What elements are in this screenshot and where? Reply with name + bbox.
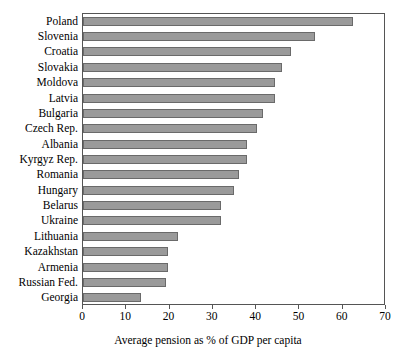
bar-row bbox=[83, 63, 384, 72]
y-axis-label: Georgia bbox=[0, 291, 78, 303]
bar bbox=[83, 140, 247, 149]
y-axis-label: Kazakhstan bbox=[0, 245, 78, 257]
bar-row bbox=[83, 124, 384, 133]
bar bbox=[83, 293, 141, 302]
pension-bar-chart: PolandSloveniaCroatiaSlovakiaMoldovaLatv… bbox=[0, 0, 416, 360]
x-tick-label: 60 bbox=[336, 310, 348, 322]
bar-row bbox=[83, 94, 384, 103]
x-tick-label: 50 bbox=[293, 310, 305, 322]
x-tick-label: 70 bbox=[379, 310, 391, 322]
bar bbox=[83, 278, 166, 287]
bar bbox=[83, 155, 247, 164]
bar bbox=[83, 109, 263, 118]
y-axis-category-labels: PolandSloveniaCroatiaSlovakiaMoldovaLatv… bbox=[0, 13, 78, 305]
y-axis-label: Slovenia bbox=[0, 30, 78, 42]
y-axis-label: Romania bbox=[0, 168, 78, 180]
bar bbox=[83, 170, 239, 179]
y-axis-label: Czech Rep. bbox=[0, 122, 78, 134]
bar-row bbox=[83, 47, 384, 56]
bar bbox=[83, 216, 221, 225]
x-tick-label: 10 bbox=[120, 310, 132, 322]
bar bbox=[83, 124, 257, 133]
x-tick-label: 30 bbox=[206, 310, 218, 322]
x-tick-mark bbox=[342, 305, 343, 309]
x-tick-mark bbox=[82, 305, 83, 309]
x-tick-label: 20 bbox=[163, 310, 175, 322]
y-axis-label: Poland bbox=[0, 15, 78, 27]
bar-row bbox=[83, 155, 384, 164]
bar-row bbox=[83, 32, 384, 41]
x-tick-mark bbox=[212, 305, 213, 309]
y-axis-label: Russian Fed. bbox=[0, 276, 78, 288]
x-tick-label: 0 bbox=[79, 310, 85, 322]
bar-row bbox=[83, 170, 384, 179]
y-axis-label: Hungary bbox=[0, 184, 78, 196]
y-axis-label: Belarus bbox=[0, 199, 78, 211]
bar bbox=[83, 201, 221, 210]
bar-row bbox=[83, 186, 384, 195]
x-axis-title: Average pension as % of GDP per capita bbox=[0, 334, 416, 346]
bar bbox=[83, 186, 234, 195]
y-axis-label: Slovakia bbox=[0, 61, 78, 73]
bar-row bbox=[83, 216, 384, 225]
x-tick-label: 40 bbox=[249, 310, 261, 322]
plot-area bbox=[82, 13, 385, 305]
bar-row bbox=[83, 140, 384, 149]
x-tick-mark bbox=[255, 305, 256, 309]
y-axis-label: Armenia bbox=[0, 261, 78, 273]
y-axis-label: Kyrgyz Rep. bbox=[0, 153, 78, 165]
bar bbox=[83, 247, 168, 256]
bar-row bbox=[83, 201, 384, 210]
bar-row bbox=[83, 232, 384, 241]
bar-row bbox=[83, 293, 384, 302]
y-axis-label: Ukraine bbox=[0, 214, 78, 226]
y-axis-label: Albania bbox=[0, 138, 78, 150]
y-axis-label: Latvia bbox=[0, 92, 78, 104]
x-tick-mark bbox=[169, 305, 170, 309]
bar bbox=[83, 17, 353, 26]
y-axis-label: Moldova bbox=[0, 76, 78, 88]
x-tick-mark bbox=[125, 305, 126, 309]
bar bbox=[83, 63, 282, 72]
bar bbox=[83, 47, 291, 56]
bar bbox=[83, 232, 178, 241]
x-axis: 010203040506070 bbox=[82, 305, 385, 329]
bar bbox=[83, 32, 315, 41]
bar-row bbox=[83, 78, 384, 87]
bar-row bbox=[83, 263, 384, 272]
bar-row bbox=[83, 247, 384, 256]
x-tick-mark bbox=[385, 305, 386, 309]
y-axis-label: Bulgaria bbox=[0, 107, 78, 119]
y-axis-label: Croatia bbox=[0, 45, 78, 57]
bar bbox=[83, 263, 168, 272]
bar bbox=[83, 78, 275, 87]
bar-row bbox=[83, 278, 384, 287]
x-tick-mark bbox=[298, 305, 299, 309]
bar bbox=[83, 94, 275, 103]
bar-row bbox=[83, 17, 384, 26]
y-axis-label: Lithuania bbox=[0, 230, 78, 242]
bar-row bbox=[83, 109, 384, 118]
